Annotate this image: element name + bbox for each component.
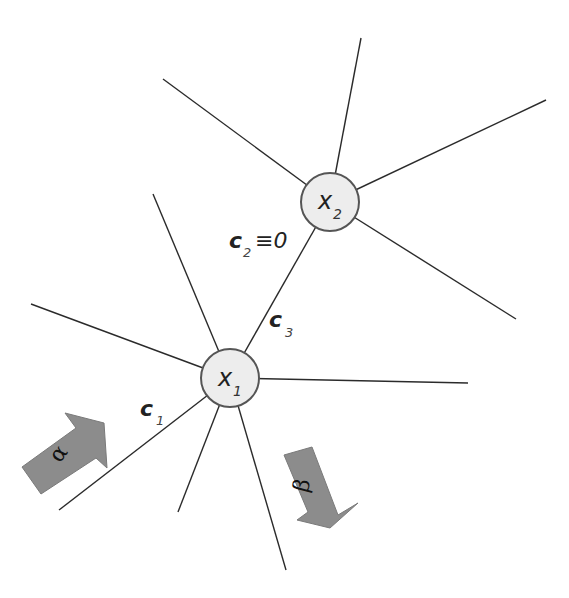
- x2-edges: [163, 38, 546, 319]
- node-x2-label: x: [317, 187, 333, 215]
- node-x1: x 1: [201, 349, 259, 407]
- edge-label-c3-main: c: [269, 307, 282, 332]
- edge-label-c2-main: c: [229, 228, 242, 253]
- edge-label-c1: c 1: [140, 396, 164, 428]
- edge-x2-lower-right: [330, 202, 516, 319]
- alpha-arrow: α: [22, 413, 107, 494]
- edge-label-c2-sub: 2: [243, 245, 251, 260]
- node-x1-label: x: [217, 364, 233, 392]
- edge-label-c3: c 3: [269, 307, 293, 340]
- edge-x1-right: [230, 378, 468, 383]
- graph-diagram: x 1 x 2 c 1 c 2 ≡0 c 3 α β: [0, 0, 569, 598]
- beta-arrow: β: [284, 447, 358, 528]
- edge-x2-upper-right: [330, 100, 546, 202]
- edge-label-c3-sub: 3: [285, 325, 293, 340]
- node-x2: x 2: [301, 173, 359, 231]
- edge-label-c1-sub: 1: [156, 413, 164, 428]
- edge-label-c2: c 2 ≡0: [229, 228, 287, 260]
- node-x1-subscript: 1: [233, 383, 242, 399]
- node-x2-subscript: 2: [333, 206, 342, 222]
- edge-label-c2-suffix: ≡0: [255, 228, 287, 253]
- edge-x1-left: [31, 304, 230, 378]
- edge-x2-upper-left: [163, 79, 330, 202]
- edge-label-c1-main: c: [140, 396, 153, 421]
